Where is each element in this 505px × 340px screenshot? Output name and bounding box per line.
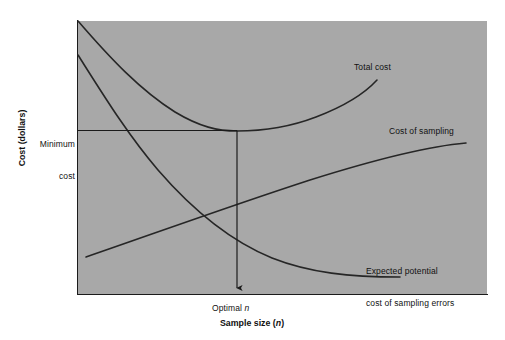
label-total-cost: Total cost xyxy=(354,62,391,73)
label-expected-error: Expected potential cost of sampling erro… xyxy=(366,245,454,329)
label-cost-of-sampling: Cost of sampling xyxy=(389,126,454,137)
y-axis-title: Cost (dollars) xyxy=(17,88,27,188)
label-expected-error-line1: Expected potential xyxy=(366,266,454,277)
x-axis-title-end: ) xyxy=(281,318,284,328)
x-tick-label-text: Optimal xyxy=(212,303,244,313)
y-tick-label-minimum-cost: Minimum cost xyxy=(28,118,75,202)
y-tick-label-line1: Minimum xyxy=(28,139,75,150)
x-tick-label-optimal-n: Optimal n xyxy=(212,303,249,314)
label-expected-error-line2: cost of sampling errors xyxy=(366,298,454,309)
x-axis-title-main: Sample size ( xyxy=(220,318,276,328)
y-tick-label-line2: cost xyxy=(28,171,75,182)
figure-container: Total cost Cost of sampling Expected pot… xyxy=(0,0,505,340)
series-cost-of-sampling xyxy=(86,143,466,257)
x-tick-label-italic-n: n xyxy=(244,303,249,313)
x-axis-title: Sample size (n) xyxy=(220,318,284,328)
series-total-cost xyxy=(78,21,377,131)
